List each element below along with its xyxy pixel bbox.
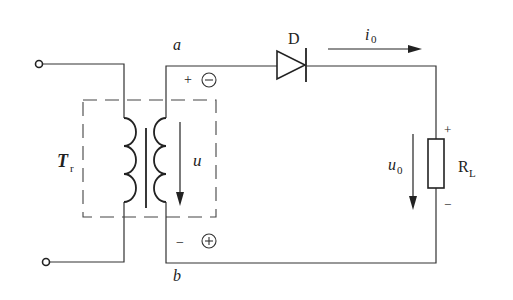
transformer-label: T	[57, 151, 69, 171]
output-wire-top	[306, 66, 436, 139]
secondary-voltage-arrowhead	[176, 192, 184, 206]
primary-coil	[124, 118, 136, 202]
load-label-sub: L	[469, 167, 476, 179]
load-minus-sign: −	[444, 197, 451, 212]
minus-sign-bottom: −	[176, 235, 184, 250]
plus-sign-top: +	[184, 72, 192, 87]
diode-label: D	[288, 30, 300, 47]
input-terminal-bottom	[43, 259, 50, 266]
node-a-label: a	[173, 36, 181, 53]
node-b-label: b	[173, 267, 181, 284]
output-voltage-label-sub: 0	[397, 164, 403, 176]
output-voltage-arrowhead	[409, 196, 417, 210]
output-voltage-label: u	[388, 156, 396, 173]
load-label: R	[458, 158, 469, 175]
current-label: i	[365, 26, 369, 43]
secondary-wire-top	[166, 66, 277, 118]
primary-wire-bottom	[50, 202, 124, 262]
transformer-label-sub: r	[70, 162, 74, 174]
load-plus-sign: +	[444, 122, 451, 137]
secondary-wire-bottom	[166, 188, 436, 263]
load-resistor	[428, 139, 444, 188]
secondary-coil	[154, 118, 166, 202]
current-arrowhead	[408, 45, 422, 53]
current-label-sub: 0	[371, 33, 377, 45]
circuit-diagram: a b + − T r u D i 0 u 0 R L + −	[0, 0, 513, 300]
input-terminal-top	[36, 61, 43, 68]
secondary-voltage-label: u	[193, 151, 202, 170]
diode-icon	[277, 51, 305, 79]
